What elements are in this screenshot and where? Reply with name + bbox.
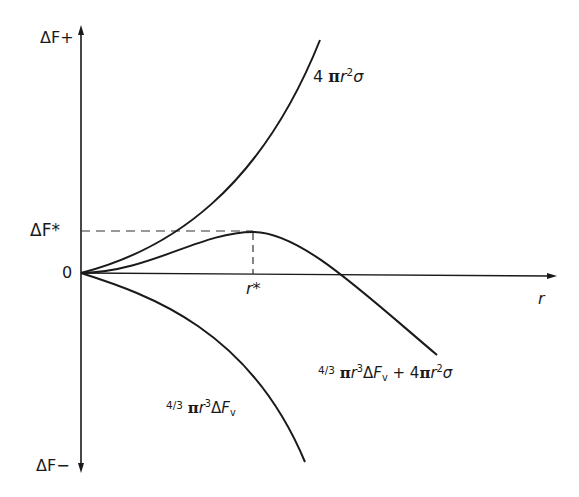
- y-axis-negative-label: ΔF−: [36, 458, 70, 474]
- surface-term-curve: [81, 40, 320, 273]
- nucleation-energy-diagram: ΔF+ ΔF− 0 ΔF* r* r 4 πr2σ 4/3 πr3ΔFv + 4…: [0, 0, 579, 497]
- x-axis-label: r: [538, 291, 545, 307]
- volume-term-label: 4/3 πr3ΔFv: [166, 399, 236, 418]
- critical-energy-label: ΔF*: [30, 222, 60, 239]
- diagram-graphics: [0, 0, 579, 497]
- y-axis-positive-label: ΔF+: [40, 30, 74, 46]
- critical-radius-label: r*: [246, 281, 261, 297]
- origin-label: 0: [62, 265, 72, 281]
- surface-term-label: 4 πr2σ: [313, 67, 363, 85]
- total-energy-label: 4/3 πr3ΔFv + 4πr2σ: [318, 364, 452, 383]
- volume-term-curve: [81, 273, 305, 462]
- x-axis: [81, 273, 552, 276]
